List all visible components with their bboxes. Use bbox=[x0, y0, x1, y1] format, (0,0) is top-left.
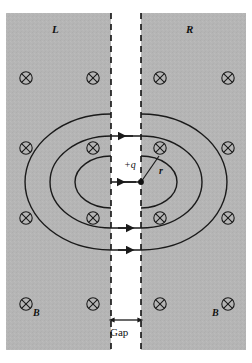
b-field-label-right: B bbox=[212, 308, 219, 318]
physics-figure: L R +q r B B Gap bbox=[0, 0, 252, 363]
right-plate bbox=[141, 13, 246, 350]
radius-label: r bbox=[159, 166, 163, 176]
right-region-label: R bbox=[186, 24, 193, 35]
b-field-label-left: B bbox=[33, 308, 40, 318]
gap-label: Gap bbox=[110, 327, 128, 338]
left-region-label: L bbox=[52, 24, 59, 35]
charge-label: +q bbox=[124, 160, 136, 170]
gap-field-lines bbox=[111, 136, 141, 250]
charge-point bbox=[138, 179, 144, 185]
